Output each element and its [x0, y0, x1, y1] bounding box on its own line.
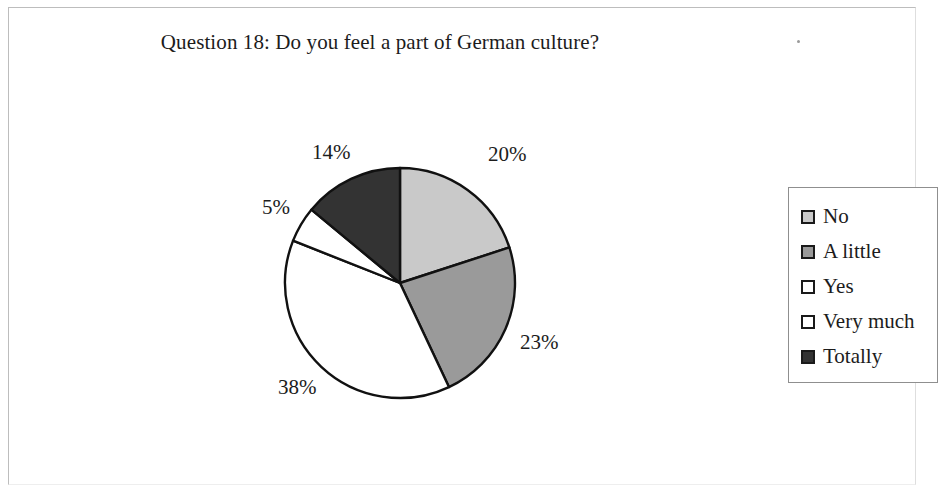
- legend-swatch-icon-totally: [801, 350, 815, 364]
- pie-slice-group: [285, 168, 515, 398]
- chart-title: Question 18: Do you feel a part of Germa…: [0, 30, 760, 55]
- legend-label-very-much: Very much: [823, 311, 915, 332]
- legend-label-yes: Yes: [823, 276, 854, 297]
- pie-chart: 14% 20% 5% 23% 38%: [250, 130, 570, 420]
- legend-item-very-much[interactable]: Very much: [801, 304, 937, 339]
- legend-item-a-little[interactable]: A little: [801, 234, 937, 269]
- legend-label-a-little: A little: [823, 241, 881, 262]
- slice-label-no: 20%: [488, 142, 527, 167]
- chart-legend: No A little Yes Very much Totally: [788, 187, 938, 383]
- legend-item-yes[interactable]: Yes: [801, 269, 937, 304]
- slice-label-yes: 38%: [278, 375, 317, 400]
- legend-swatch-icon-very-much: [801, 315, 815, 329]
- legend-item-totally[interactable]: Totally: [801, 339, 937, 374]
- legend-swatch-icon-yes: [801, 280, 815, 294]
- slice-label-a-little: 23%: [520, 330, 559, 355]
- slice-label-very-much: 5%: [262, 195, 290, 220]
- legend-swatch-icon-a-little: [801, 245, 815, 259]
- legend-label-totally: Totally: [823, 346, 882, 367]
- legend-item-no[interactable]: No: [801, 199, 937, 234]
- slice-label-totally: 14%: [312, 140, 351, 165]
- legend-swatch-icon-no: [801, 210, 815, 224]
- legend-label-no: No: [823, 206, 849, 227]
- scan-artifact-speck: [797, 40, 800, 43]
